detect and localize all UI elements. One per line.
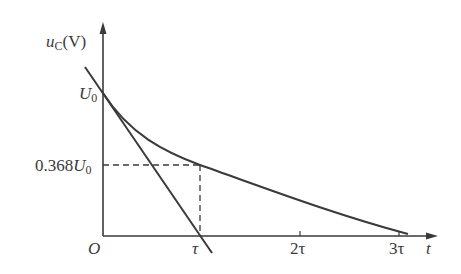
y-axis-arrow-icon xyxy=(100,22,107,34)
tau-label: τ xyxy=(192,239,199,258)
discharge-curve xyxy=(103,93,408,234)
three-tau-label: 3τ xyxy=(389,239,405,258)
chart: uC(V) U0 0.368U0 O τ 2τ 3τ t xyxy=(0,0,461,274)
t-axis-label: t xyxy=(426,239,432,258)
u368-label: 0.368U0 xyxy=(35,156,92,177)
y-axis-label: uC(V) xyxy=(46,32,86,53)
u0-label: U0 xyxy=(79,84,97,105)
origin-label: O xyxy=(88,239,100,258)
two-tau-label: 2τ xyxy=(290,239,306,258)
